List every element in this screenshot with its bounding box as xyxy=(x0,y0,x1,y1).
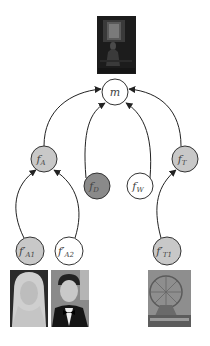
photo-ferris-wheel xyxy=(148,270,191,327)
photo-blonde-woman xyxy=(10,270,48,327)
node-fW: fW xyxy=(127,173,153,199)
edge-fT1p-to-fT xyxy=(157,170,176,238)
edge-fA-to-m xyxy=(44,89,101,146)
node-fD: fD xyxy=(84,173,110,199)
edge-fW-to-m xyxy=(126,103,151,178)
node-fA: fA xyxy=(31,146,57,172)
edge-fA2p-to-fA xyxy=(54,170,79,238)
edge-fD-to-m xyxy=(85,103,105,178)
node-fA1-prime: f′A1 xyxy=(16,237,44,265)
node-fT1-prime: f′T1 xyxy=(153,237,181,265)
graphical-model-diagram: m fA fD fW fT f′A1 f′A2 f′T1 xyxy=(0,0,210,346)
node-m-label: m xyxy=(110,86,120,99)
edge-fA1p-to-fA xyxy=(16,170,36,238)
node-m: m xyxy=(102,79,128,105)
node-fT: fT xyxy=(172,146,198,172)
photo-man-tuxedo xyxy=(51,270,89,327)
node-fA2-prime: f′A2 xyxy=(55,237,83,265)
edge-fT-to-m xyxy=(129,89,181,146)
root-painting-image xyxy=(97,16,136,74)
